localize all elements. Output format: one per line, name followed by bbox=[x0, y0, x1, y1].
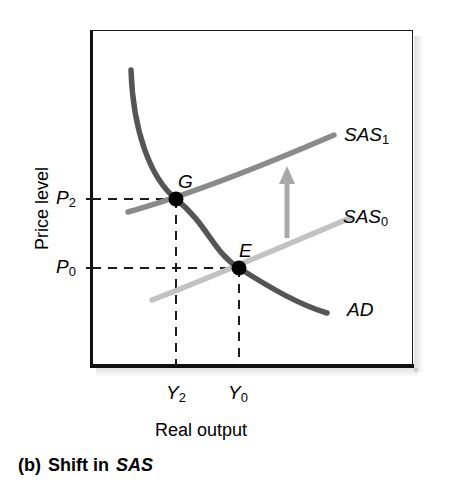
x-tick-label-y2: Y2 bbox=[166, 383, 186, 402]
x-tick-label-y0-base: Y bbox=[228, 382, 241, 403]
curve-label-sas0: SAS0 bbox=[343, 207, 388, 226]
curve-label-sas0-base: SAS bbox=[343, 206, 381, 227]
x-axis-line bbox=[90, 364, 414, 368]
caption-prefix: (b) bbox=[18, 455, 41, 475]
x-tick-label-y0-sub: 0 bbox=[241, 390, 248, 405]
caption-text: Shift in bbox=[48, 455, 109, 475]
y-tick-label-p2-base: P bbox=[56, 187, 69, 208]
curve-label-sas1-base: SAS bbox=[344, 124, 382, 145]
point-label-e: E bbox=[239, 241, 252, 260]
caption-emphasis: SAS bbox=[116, 455, 153, 475]
panel-shadow-bottom bbox=[96, 368, 418, 377]
y-tick-label-p0-base: P bbox=[56, 256, 69, 277]
figure-caption: (b)Shift inSAS bbox=[18, 455, 153, 476]
curve-label-sas1-sub: 1 bbox=[382, 132, 389, 147]
x-tick-label-y2-base: Y bbox=[166, 382, 179, 403]
point-label-g: G bbox=[178, 172, 193, 191]
curve-label-sas1: SAS1 bbox=[344, 125, 389, 144]
y-axis-line bbox=[90, 30, 93, 368]
curve-label-sas0-sub: 0 bbox=[381, 214, 388, 229]
panel-shadow-right bbox=[414, 36, 424, 372]
y-tick-label-p2: P2 bbox=[56, 188, 76, 207]
y-tick-label-p0: P0 bbox=[56, 257, 76, 276]
curve-label-ad: AD bbox=[347, 300, 373, 319]
y-tick-label-p0-sub: 0 bbox=[69, 264, 76, 279]
x-axis-title: Real output bbox=[155, 420, 247, 441]
figure-container: Price level P2 P0 Y2 Y0 Real output G E … bbox=[0, 0, 449, 489]
x-tick-label-y2-sub: 2 bbox=[179, 390, 186, 405]
y-tick-label-p2-sub: 2 bbox=[69, 195, 76, 210]
x-tick-label-y0: Y0 bbox=[228, 383, 248, 402]
y-axis-title: Price level bbox=[32, 134, 53, 284]
